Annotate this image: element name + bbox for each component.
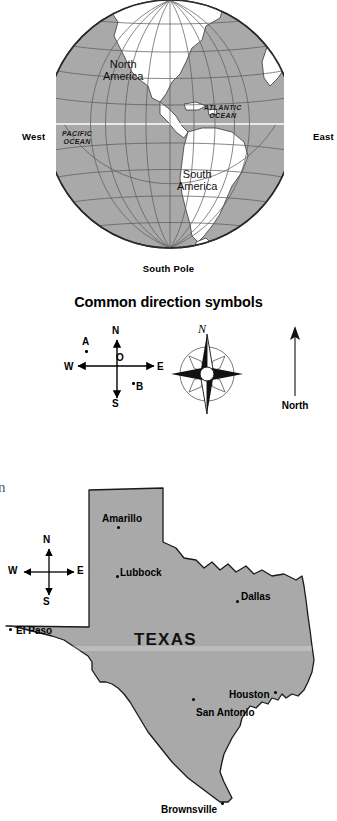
texas-compass-label-north: N (43, 534, 50, 545)
label-pacific-line2: OCEAN (62, 138, 92, 146)
label-atlantic-line1: ATLANTIC (204, 104, 242, 112)
globe-label-west: West (22, 131, 45, 142)
cross-point-a-dot (85, 350, 88, 353)
city-dot-el-paso (9, 628, 12, 631)
globe-figure: West East South Pole North America South… (0, 0, 337, 290)
label-south-america-line2: America (177, 180, 217, 192)
texas-map-figure: n TEXAS N S W E Amarillo Lubbock Dallas … (0, 450, 337, 821)
compass-rose-svg (168, 322, 246, 416)
label-south-america-line1: South (177, 168, 217, 180)
compass-rose-symbol: N (168, 322, 246, 416)
label-north-america-line1: North (103, 58, 143, 70)
city-label-amarillo: Amarillo (102, 513, 142, 524)
label-north-america: North America (103, 58, 143, 82)
city-label-dallas: Dallas (241, 591, 270, 602)
city-label-lubbock: Lubbock (120, 567, 162, 578)
cross-label-west: W (64, 361, 73, 372)
label-atlantic-ocean: ATLANTIC OCEAN (204, 104, 242, 120)
cross-label-point-a: A (82, 336, 89, 347)
compass-rose-group (171, 334, 243, 414)
globe-label-south-pole: South Pole (143, 263, 195, 274)
north-arrow-label: North (256, 400, 334, 411)
texas-compass-label-south: S (43, 596, 50, 607)
city-dot-brownsville (221, 802, 224, 805)
texas-map-compass: N S W E (8, 534, 90, 610)
cross-label-origin: O (116, 352, 124, 363)
city-label-san-antonio: San Antonio (196, 707, 255, 718)
city-label-el-paso: El Paso (16, 625, 52, 636)
cross-direction-symbol: N S W E O A B (62, 324, 172, 414)
texas-compass-label-east: E (77, 565, 84, 576)
direction-symbols-title: Common direction symbols (0, 294, 337, 310)
greenland-landmass (224, 0, 254, 16)
label-pacific-ocean: PACIFIC OCEAN (62, 130, 92, 146)
city-dot-amarillo (117, 526, 120, 529)
texas-state-label: TEXAS (134, 630, 197, 650)
label-south-america: South America (177, 168, 217, 192)
direction-symbols-figure: Common direction symbols N S W E O A B N (0, 290, 337, 450)
globe-label-east: East (313, 131, 334, 142)
cross-label-east: E (157, 361, 164, 372)
city-dot-dallas (236, 600, 239, 603)
north-arrow-symbol: North (256, 324, 334, 418)
label-atlantic-line2: OCEAN (204, 112, 242, 120)
city-dot-houston (274, 691, 277, 694)
north-arrow-svg (256, 324, 334, 400)
cross-label-point-b: B (136, 381, 143, 392)
city-dot-san-antonio (192, 698, 195, 701)
cross-label-north: N (112, 325, 119, 336)
label-north-america-line2: America (103, 70, 143, 82)
compass-rose-label-north: N (198, 322, 206, 337)
cross-label-south: S (112, 398, 119, 409)
city-dot-lubbock (116, 575, 119, 578)
compass-rose-hub (200, 367, 214, 381)
label-pacific-line1: PACIFIC (62, 130, 92, 138)
city-label-brownsville: Brownsville (161, 804, 217, 815)
texas-compass-label-west: W (8, 565, 17, 576)
cross-point-b-dot (132, 382, 135, 385)
city-label-houston: Houston (229, 689, 270, 700)
